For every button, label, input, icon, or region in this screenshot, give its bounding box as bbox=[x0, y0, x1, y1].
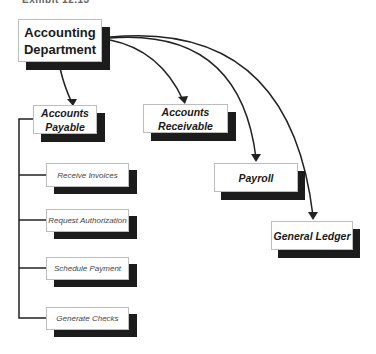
root-label-line2: Department bbox=[24, 41, 96, 58]
node-generate-checks: Generate Checks bbox=[46, 307, 137, 337]
node-accounts-receivable: Accounts Receivable bbox=[143, 104, 236, 141]
node-request-authorization: Request Authorization bbox=[46, 209, 137, 239]
node-receive-invoices: Receive Invoices bbox=[46, 163, 137, 194]
accounts-receivable-line1: Accounts bbox=[158, 105, 213, 119]
accounts-receivable-line2: Receivable bbox=[158, 119, 213, 133]
node-schedule-payment: Schedule Payment bbox=[46, 257, 137, 287]
arrow-to-accounts-receivable bbox=[110, 40, 183, 100]
payroll-label: Payroll bbox=[238, 171, 273, 185]
accounts-payable-line2: Payable bbox=[41, 120, 89, 134]
general-ledger-label: General Ledger bbox=[273, 229, 350, 243]
node-payroll: Payroll bbox=[214, 163, 305, 200]
node-general-ledger: General Ledger bbox=[271, 221, 360, 258]
payable-tree-line bbox=[19, 119, 46, 318]
node-accounts-payable: Accounts Payable bbox=[33, 105, 105, 142]
arrow-to-accounts-payable bbox=[60, 68, 72, 103]
accounts-payable-line1: Accounts bbox=[41, 106, 89, 120]
node-accounting-department: Accounting Department bbox=[18, 19, 110, 70]
root-label-line1: Accounting bbox=[24, 24, 96, 41]
